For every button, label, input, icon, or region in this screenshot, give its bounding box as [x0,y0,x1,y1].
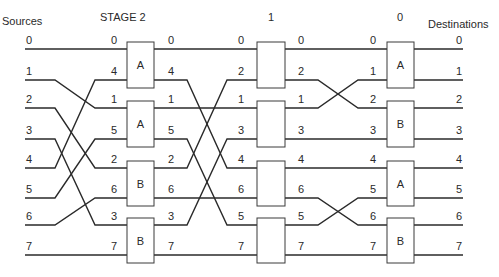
stage1-input-label: 7 [238,240,244,252]
stage2-input-label: 6 [111,183,117,195]
stage1-output-label: 4 [298,153,304,165]
stage-1-header: 1 [268,11,274,23]
stage2-switch-3: B [127,218,154,263]
stage2-input-label: 3 [111,210,117,222]
stage2-output-label: 1 [168,93,174,105]
stage0-input-label: 4 [370,153,376,165]
source-label: 1 [26,65,32,77]
stage1-input-label: 2 [238,65,244,77]
stage2-input-label: 5 [111,124,117,136]
sources-header: Sources [2,15,43,27]
stage2-input-label: 0 [111,34,117,46]
stage2-switch-0: A [127,42,154,88]
switch-type-label: B [397,118,404,130]
destination-label: 5 [456,183,462,195]
stage1-input-label: 5 [238,210,244,222]
stage1-input-label: 6 [238,183,244,195]
switch-box [257,161,285,206]
stage0-input-label: 5 [370,183,376,195]
switch-type-label: B [137,178,144,190]
stage2-input-label: 4 [111,65,117,77]
switch-type-label: B [137,235,144,247]
stage2-input-label: 2 [111,153,117,165]
switch-type-label: B [397,235,404,247]
stage1-input-label: 4 [238,153,244,165]
destination-label: 2 [456,93,462,105]
stage2-switch-2: B [127,161,154,206]
destination-label: 7 [456,240,462,252]
stage2-output-label: 7 [168,240,174,252]
destination-label: 6 [456,210,462,222]
stage2-output-label: 0 [168,34,174,46]
stage2-output-label: 3 [168,210,174,222]
stage0-input-label: 0 [370,34,376,46]
stage1-switch-3 [257,218,285,263]
stage0-input-label: 1 [370,65,376,77]
stage1-switch-1 [257,101,285,147]
stage2-input-label: 1 [111,93,117,105]
stage1-input-label: 0 [238,34,244,46]
stage1-output-label: 5 [298,210,304,222]
stage2-input-label: 7 [111,240,117,252]
stage0-switch-0: A [387,42,414,88]
source-label: 0 [26,34,32,46]
source-label: 7 [26,240,32,252]
stage2-output-label: 5 [168,124,174,136]
stage-0-header: 0 [397,11,403,23]
stage1-switch-2 [257,161,285,206]
stage2-switch-1: A [127,101,154,147]
switch-type-label: A [397,59,405,71]
stage1-output-label: 0 [298,34,304,46]
destination-label: 0 [456,34,462,46]
source-label: 3 [26,124,32,136]
source-label: 5 [26,183,32,195]
destination-label: 3 [456,124,462,136]
switch-box [257,101,285,147]
stage1-switch-0 [257,42,285,88]
stage2-output-label: 6 [168,183,174,195]
source-label: 4 [26,153,32,165]
stage0-input-label: 3 [370,124,376,136]
stage0-switch-1: B [387,101,414,147]
switching-network-diagram: Sources STAGE 2 1 0 Destinations AABBABA… [0,0,499,277]
switch-box [257,42,285,88]
switch-type-label: A [397,178,405,190]
stage0-switch-2: A [387,161,414,206]
stage-2-header: STAGE 2 [100,11,146,23]
stage0-switch-3: B [387,218,414,263]
switch-type-label: A [137,59,145,71]
stage0-input-label: 2 [370,93,376,105]
source-label: 6 [26,210,32,222]
stage0-input-label: 7 [370,240,376,252]
stage2-output-label: 2 [168,153,174,165]
stage1-output-label: 6 [298,183,304,195]
stage2-output-label: 4 [168,65,174,77]
destinations-header: Destinations [428,18,489,30]
stage1-output-label: 7 [298,240,304,252]
stage1-input-label: 3 [238,124,244,136]
switch-box [257,218,285,263]
stage1-output-label: 2 [298,65,304,77]
stage1-output-label: 1 [298,93,304,105]
stage1-output-label: 3 [298,124,304,136]
switch-type-label: A [137,118,145,130]
source-label: 2 [26,93,32,105]
destination-label: 1 [456,65,462,77]
destination-label: 4 [456,153,462,165]
stage1-input-label: 1 [238,93,244,105]
stage0-input-label: 6 [370,210,376,222]
